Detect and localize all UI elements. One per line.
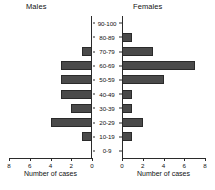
bar-row	[122, 16, 205, 30]
bar-males-50-59	[61, 75, 92, 84]
males-panel-title: Males	[26, 2, 47, 11]
age-band-label: 10-19	[92, 130, 122, 144]
bar-row	[122, 44, 205, 58]
bar-row	[9, 59, 92, 73]
age-band-label: 0-9	[92, 144, 122, 158]
bar-males-60-69	[61, 61, 92, 70]
age-band-label: 30-39	[92, 101, 122, 115]
bar-row	[9, 73, 92, 87]
axis-tick-label: 6	[183, 162, 186, 169]
age-band-label: 60-69	[92, 59, 122, 73]
females-axis-title: Number of cases	[122, 170, 205, 177]
age-band-label: 40-49	[92, 87, 122, 101]
males-axis-title: Number of cases	[9, 170, 92, 177]
bar-females-50-59	[122, 75, 164, 84]
females-panel-title: Females	[133, 2, 162, 11]
males-bar-rows	[9, 16, 92, 158]
axis-tick-label: 0	[90, 162, 93, 169]
bar-females-80-89	[122, 33, 132, 42]
axis-tick	[184, 158, 185, 161]
axis-tick-label: 2	[70, 162, 73, 169]
bar-row	[122, 30, 205, 44]
bar-row	[9, 115, 92, 129]
axis-tick-label: 2	[141, 162, 144, 169]
axis-tick	[71, 158, 72, 161]
bar-females-60-69	[122, 61, 195, 70]
axis-tick-label: 4	[162, 162, 165, 169]
bar-row	[122, 144, 205, 158]
females-value-axis: 02468	[122, 158, 205, 159]
bar-row	[122, 130, 205, 144]
bar-males-40-49	[61, 90, 92, 99]
axis-tick-label: 8	[203, 162, 206, 169]
males-plot-area	[9, 16, 92, 158]
axis-tick-label: 6	[28, 162, 31, 169]
axis-tick	[122, 158, 123, 161]
bar-females-70-79	[122, 47, 153, 56]
age-band-label: 70-79	[92, 44, 122, 58]
age-band-label: 50-59	[92, 73, 122, 87]
females-bar-rows	[122, 16, 205, 158]
bar-row	[122, 59, 205, 73]
bar-row	[9, 16, 92, 30]
bar-males-30-39	[71, 104, 92, 113]
axis-tick-label: 4	[49, 162, 52, 169]
axis-tick	[9, 158, 10, 161]
axis-tick	[51, 158, 52, 161]
axis-tick	[164, 158, 165, 161]
bar-females-20-29	[122, 118, 143, 127]
bar-row	[9, 130, 92, 144]
bar-row	[9, 44, 92, 58]
axis-tick-label: 0	[120, 162, 123, 169]
bar-row	[122, 115, 205, 129]
axis-tick	[205, 158, 206, 161]
bar-row	[9, 144, 92, 158]
bar-row	[9, 30, 92, 44]
bar-males-20-29	[51, 118, 93, 127]
bar-males-10-19	[82, 132, 92, 141]
bar-row	[122, 101, 205, 115]
age-band-label: 90-100	[92, 16, 122, 30]
bar-males-70-79	[82, 47, 92, 56]
age-band-labels: 90-10080-8970-7960-6950-5940-4930-3920-2…	[92, 16, 122, 158]
bar-row	[9, 87, 92, 101]
bar-row	[122, 73, 205, 87]
axis-tick-label: 8	[7, 162, 10, 169]
bar-females-40-49	[122, 90, 132, 99]
bar-females-30-39	[122, 104, 132, 113]
age-band-label: 80-89	[92, 30, 122, 44]
bar-row	[9, 101, 92, 115]
bar-row	[122, 87, 205, 101]
population-pyramid-chart: Males Females 90-10080-8970-7960-6950-59…	[0, 0, 215, 190]
females-plot-area	[122, 16, 205, 158]
bar-females-10-19	[122, 132, 132, 141]
axis-tick	[30, 158, 31, 161]
males-value-axis: 86420	[9, 158, 92, 159]
axis-tick	[143, 158, 144, 161]
age-band-label: 20-29	[92, 115, 122, 129]
axis-tick	[92, 158, 93, 161]
